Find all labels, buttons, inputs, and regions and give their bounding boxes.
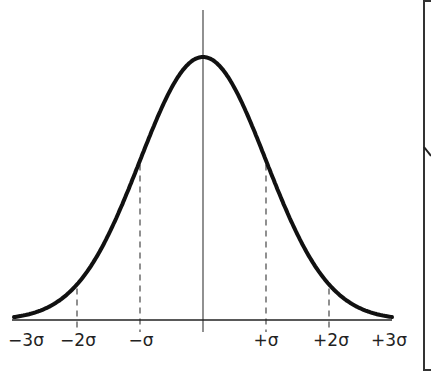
bell-curve-plot [0,0,431,378]
right-panel-curve-fragment [424,147,431,156]
normal-distribution-diagram: −3σ −2σ −σ +σ +2σ +3σ [0,0,431,378]
tick-label-plus-1-sigma: +σ [253,330,278,350]
tick-label-minus-2-sigma: −2σ [60,330,96,350]
tick-label-plus-3-sigma: +3σ [371,330,407,350]
tick-label-plus-2-sigma: +2σ [313,330,349,350]
right-panel-border [424,1,431,370]
tick-label-minus-1-sigma: −σ [128,330,153,350]
tick-label-minus-3-sigma: −3σ [8,330,44,350]
